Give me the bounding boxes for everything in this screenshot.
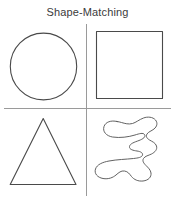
shape-cell-triangle[interactable]: Triangle [0, 109, 86, 195]
circle-shape [0, 22, 86, 108]
square-shape [87, 22, 173, 108]
shape-matching-worksheet: Shape-Matching Circle Square Triangle [0, 0, 175, 200]
blob-shape [87, 109, 173, 195]
shape-cell-blob[interactable]: Irregular blob [87, 109, 173, 195]
shape-cell-square[interactable]: Square [87, 22, 173, 108]
shape-cell-circle[interactable]: Circle [0, 22, 86, 108]
page-title: Shape-Matching [0, 6, 175, 19]
shape-grid: Circle Square Triangle Irregular blob [0, 22, 175, 200]
triangle-shape [0, 109, 86, 195]
